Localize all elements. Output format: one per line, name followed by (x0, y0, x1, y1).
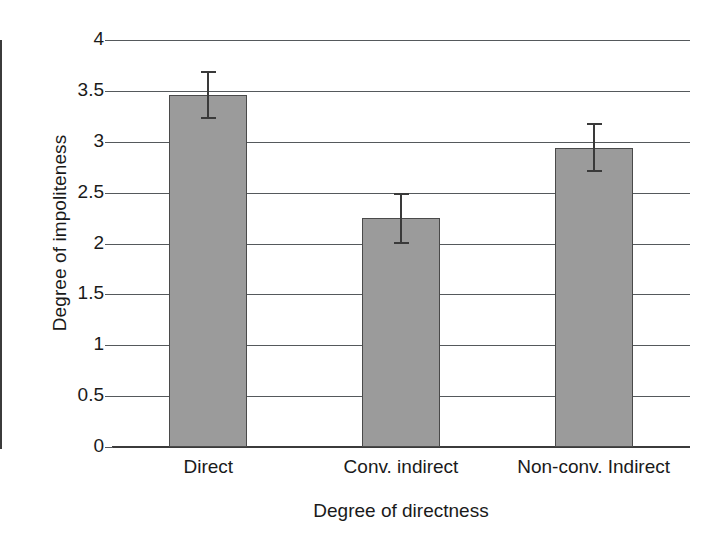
gridline (112, 40, 690, 41)
bar-chart-figure: Degree of impoliteness 00.511.522.533.54… (0, 0, 713, 542)
y-tick-mark (105, 396, 113, 397)
y-axis-line (0, 40, 2, 449)
y-tick-label-wrap: 2.5 (20, 181, 104, 205)
error-bar-stem (400, 193, 402, 244)
y-tick-label-wrap: 0.5 (20, 384, 104, 408)
y-tick-label-wrap: 0 (20, 435, 104, 459)
x-axis-title: Degree of directness (112, 500, 690, 522)
error-bar-cap-bottom (587, 170, 602, 172)
error-bar-stem (207, 71, 209, 120)
y-tick-label: 3.5 (34, 79, 104, 101)
y-tick-label: 2.5 (34, 181, 104, 203)
y-tick-mark (105, 193, 113, 194)
y-tick-label: 2 (34, 232, 104, 254)
y-tick-label-wrap: 1 (20, 333, 104, 357)
y-tick-mark (105, 40, 113, 41)
y-tick-mark (105, 142, 113, 143)
y-tick-label: 1.5 (34, 282, 104, 304)
y-tick-label: 0.5 (34, 384, 104, 406)
error-bar-cap-bottom (201, 117, 216, 119)
y-tick-label: 3 (34, 130, 104, 152)
y-tick-label: 4 (34, 28, 104, 50)
bar (555, 148, 633, 447)
bar (169, 95, 247, 447)
y-tick-label: 1 (34, 333, 104, 355)
y-tick-label-wrap: 3 (20, 130, 104, 154)
y-tick-mark (105, 244, 113, 245)
y-tick-mark (105, 345, 113, 346)
error-bar-cap-bottom (394, 242, 409, 244)
y-tick-mark (105, 91, 113, 92)
y-tick-label-wrap: 3.5 (20, 79, 104, 103)
x-tick-label: Non-conv. Indirect (483, 456, 704, 478)
bar (362, 218, 440, 447)
y-tick-mark (105, 294, 113, 295)
y-tick-label-wrap: 2 (20, 232, 104, 256)
y-tick-label: 0 (34, 435, 104, 457)
y-tick-label-wrap: 1.5 (20, 282, 104, 306)
y-tick-label-wrap: 4 (20, 28, 104, 52)
gridline (112, 91, 690, 92)
error-bar-cap-top (394, 193, 409, 195)
error-bar-stem (593, 123, 595, 172)
error-bar-cap-top (587, 123, 602, 125)
x-tick-label: Conv. indirect (291, 456, 512, 478)
y-tick-mark (105, 447, 113, 448)
error-bar-cap-top (201, 71, 216, 73)
x-tick-label: Direct (98, 456, 319, 478)
